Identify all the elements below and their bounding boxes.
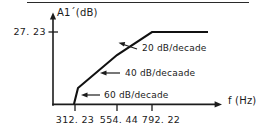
annotation-slope-60: 60 dB/decade xyxy=(81,90,169,100)
annotation-slope-20: 20 dB/decade xyxy=(119,42,207,53)
x-tick-label-792: 792. 22 xyxy=(142,114,180,125)
slope-60-arrowhead xyxy=(81,92,88,97)
x-axis-arrowhead xyxy=(215,101,222,107)
bode-plot-figure: 20 dB/decade 40 dB/decaade 60 dB/decade … xyxy=(0,0,275,135)
x-tick-label-554: 554. 44 xyxy=(100,114,138,125)
x-tick-label-312: 312. 23 xyxy=(56,114,94,125)
slope-20-arrowhead xyxy=(119,42,126,47)
x-axis-title: f (Hz) xyxy=(228,95,256,106)
annotation-slope-40: 40 dB/decaade xyxy=(100,68,196,78)
slope-60-label: 60 dB/decade xyxy=(104,90,169,100)
y-axis-title: A1´(dB) xyxy=(57,7,98,18)
slope-40-arrowhead xyxy=(100,70,107,75)
slope-40-label: 40 dB/decaade xyxy=(125,68,196,78)
y-tick-label-27: 27. 23 xyxy=(13,26,46,37)
y-axis-arrowhead xyxy=(50,13,56,20)
slope-20-label: 20 dB/decade xyxy=(142,43,207,53)
plot-canvas: 20 dB/decade 40 dB/decaade 60 dB/decade … xyxy=(0,0,275,135)
